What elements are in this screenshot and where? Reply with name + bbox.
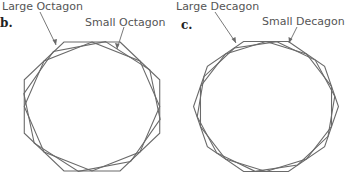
small-octagon <box>24 42 159 171</box>
large-octagon <box>24 42 159 171</box>
large-decagon <box>194 42 339 172</box>
arrowhead-large-octagon <box>53 39 58 45</box>
polygon-figure <box>0 0 346 181</box>
small-decagon <box>200 42 331 172</box>
octagon-diagram <box>24 42 160 172</box>
decagon-diagram <box>194 42 339 172</box>
middle-decagon <box>197 42 335 172</box>
